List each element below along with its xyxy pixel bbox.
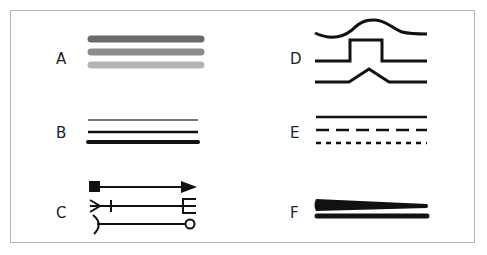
square-marker-icon [89,181,100,192]
circle-marker-icon [186,220,195,229]
hook-marker-icon [93,215,99,234]
triangle-bump-line [315,69,427,82]
panel-label-a: A [56,50,67,68]
panel-label-b: B [56,124,66,142]
panel-a: A [56,39,201,68]
curve-bump-line [315,20,427,37]
step-bump-line [315,40,427,61]
panel-e: E [290,117,427,143]
panel-label-d: D [290,50,302,68]
panel-d: D [290,20,427,82]
line-styles-diagram: A B C D E [0,0,487,255]
tapered-line [315,199,429,211]
panel-label-c: C [56,204,66,222]
panel-f: F [290,199,428,222]
panel-c: C [56,181,197,234]
panel-label-e: E [290,124,299,142]
panel-label-f: F [290,204,299,222]
panel-b: B [56,120,198,142]
arrowhead-icon [181,181,197,193]
